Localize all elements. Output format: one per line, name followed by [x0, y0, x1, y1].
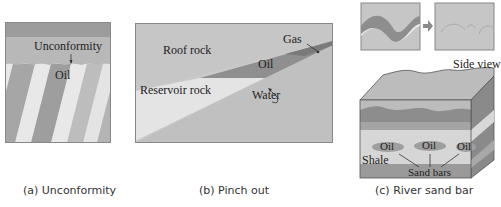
- panel-unconformity: Unconformity Oil: [5, 22, 111, 143]
- label-shale: Shale: [362, 154, 389, 166]
- caption-pinch-out: (b) Pinch out: [199, 184, 269, 197]
- label-oil-1: Oil: [380, 141, 394, 152]
- panel-river-sand-bar: Side view Oil Oil Oil Shale Sand bars: [355, 0, 495, 182]
- cap-layer: [5, 22, 111, 37]
- label-oil-2: Oil: [422, 140, 436, 151]
- sand-bar-thumbnail: [435, 3, 494, 50]
- label-oil-3: Oil: [457, 141, 471, 152]
- label-gas: Gas: [283, 33, 302, 45]
- label-side-view: Side view: [453, 58, 501, 70]
- label-sand-bars: Sand bars: [408, 167, 451, 178]
- panel-pinch-out: Roof rock Gas Oil Reservoir rock Water: [135, 23, 333, 143]
- label-reservoir-rock: Reservoir rock: [140, 84, 211, 96]
- caption-river-sand-bar: (c) River sand bar: [375, 184, 473, 197]
- label-water: Water: [252, 89, 280, 101]
- label-oil: Oil: [55, 69, 70, 81]
- river-channel-thumbnail: [361, 3, 420, 50]
- arrow-icon: [423, 20, 433, 32]
- label-unconformity: Unconformity: [34, 40, 102, 52]
- label-oil: Oil: [258, 58, 273, 70]
- label-roof-rock: Roof rock: [163, 44, 211, 56]
- caption-unconformity: (a) Unconformity: [23, 184, 116, 197]
